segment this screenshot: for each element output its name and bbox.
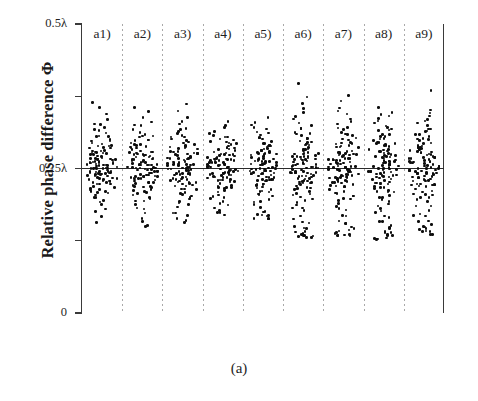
scatter-point <box>295 133 298 136</box>
scatter-point <box>212 134 215 137</box>
scatter-point <box>387 152 390 155</box>
scatter-point <box>334 192 337 195</box>
scatter-point <box>426 200 429 203</box>
scatter-point <box>136 153 139 156</box>
scatter-point <box>379 186 382 189</box>
scatter-point <box>416 150 419 153</box>
scatter-point <box>188 198 191 201</box>
scatter-point <box>391 111 394 114</box>
scatter-point <box>217 148 220 151</box>
scatter-point <box>338 107 341 110</box>
scatter-point <box>377 167 380 170</box>
scatter-point <box>290 172 293 175</box>
scatter-point <box>297 235 300 238</box>
scatter-point <box>268 191 271 194</box>
scatter-point <box>219 202 222 205</box>
scatter-point <box>305 175 308 178</box>
scatter-point <box>89 157 92 160</box>
scatter-point <box>261 138 264 141</box>
scatter-point <box>146 169 149 172</box>
scatter-point <box>372 139 375 142</box>
scatter-point <box>186 214 189 217</box>
scatter-point <box>132 128 135 131</box>
scatter-point <box>385 237 388 240</box>
scatter-point <box>295 192 298 195</box>
scatter-point <box>233 155 236 158</box>
scatter-point <box>193 143 196 146</box>
scatter-point <box>128 151 131 154</box>
scatter-point <box>216 211 219 214</box>
scatter-point <box>221 179 224 182</box>
scatter-point <box>92 181 95 184</box>
scatter-point <box>151 158 154 161</box>
scatter-point <box>376 238 379 241</box>
scatter-point <box>372 165 375 168</box>
scatter-point <box>178 202 181 205</box>
scatter-point <box>352 183 355 186</box>
scatter-point <box>90 190 93 193</box>
scatter-point <box>156 163 159 166</box>
scatter-point <box>148 181 151 184</box>
scatter-point <box>133 106 136 109</box>
scatter-point <box>383 144 386 147</box>
scatter-point <box>303 163 306 166</box>
scatter-point <box>343 186 346 189</box>
scatter-point <box>378 177 381 180</box>
scatter-point <box>310 181 313 184</box>
scatter-point <box>177 181 180 184</box>
scatter-point <box>338 154 341 157</box>
scatter-point <box>427 179 430 182</box>
scatter-point <box>134 200 137 203</box>
scatter-point <box>255 168 258 171</box>
scatter-point <box>97 145 100 148</box>
scatter-point <box>292 194 295 197</box>
scatter-point <box>133 158 136 161</box>
scatter-point <box>230 143 233 146</box>
scatter-point <box>428 135 431 138</box>
scatter-point <box>209 140 212 143</box>
scatter-point <box>430 223 433 226</box>
scatter-point <box>93 196 96 199</box>
scatter-point <box>145 145 148 148</box>
scatter-point <box>394 142 397 145</box>
y-tick-label: 0.25λ <box>39 160 67 175</box>
scatter-point <box>142 160 145 163</box>
scatter-point <box>328 177 331 180</box>
scatter-point <box>338 169 341 172</box>
scatter-point <box>105 132 108 135</box>
scatter-point <box>98 164 101 167</box>
scatter-point <box>136 207 139 210</box>
scatter-point <box>340 131 343 134</box>
scatter-point <box>379 138 382 141</box>
scatter-point <box>262 142 265 145</box>
scatter-point <box>353 227 356 230</box>
scatter-point <box>424 193 427 196</box>
scatter-point <box>306 96 309 99</box>
scatter-point <box>337 199 340 202</box>
scatter-point <box>385 155 388 158</box>
scatter-point <box>375 142 378 145</box>
scatter-point <box>377 106 380 109</box>
scatter-point <box>387 203 390 206</box>
scatter-point <box>419 213 422 216</box>
scatter-point <box>292 118 295 121</box>
scatter-point <box>427 220 430 223</box>
scatter-point <box>415 205 418 208</box>
scatter-point <box>435 172 438 175</box>
scatter-point <box>377 120 380 123</box>
scatter-point <box>381 220 384 223</box>
scatter-point <box>335 185 338 188</box>
scatter-point <box>223 214 226 217</box>
scatter-point <box>212 195 215 198</box>
scatter-point <box>314 154 317 157</box>
scatter-point <box>417 167 420 170</box>
scatter-point <box>190 168 193 171</box>
plot-area: 0.5λ0.25λ0−0.25λ−0.5λ a1)a2)a3)a4)a5)a6)… <box>82 24 444 313</box>
scatter-point <box>174 212 177 215</box>
scatter-point <box>300 233 303 236</box>
scatter-point <box>252 171 255 174</box>
y-tick-mark: 0.25λ <box>75 96 82 97</box>
scatter-point <box>309 187 312 190</box>
scatter-point <box>349 198 352 201</box>
scatter-point <box>219 168 222 171</box>
